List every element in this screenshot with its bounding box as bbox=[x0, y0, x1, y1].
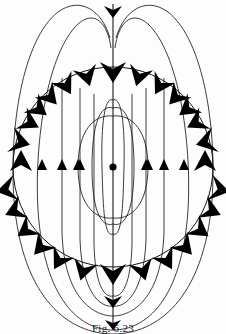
arrow-sphere-top-l1 bbox=[73, 64, 102, 90]
dipole-field-diagram bbox=[0, 0, 226, 334]
field-line-mid-right-1 bbox=[113, 78, 164, 316]
arrow-sphere-top-r1 bbox=[125, 64, 154, 90]
figure-caption: Fig. 6.23 bbox=[0, 322, 226, 334]
arrow-sphere-bot-r1 bbox=[128, 258, 157, 284]
figure-root: Fig. 6.23 bbox=[0, 0, 226, 334]
dipole-point bbox=[109, 163, 116, 170]
arrow-sphere-bot-l1 bbox=[69, 258, 98, 284]
arrow-small-left-2 bbox=[57, 159, 67, 170]
field-line-outer-right-2 bbox=[113, 18, 189, 330]
field-line-outer-left-2 bbox=[37, 18, 113, 330]
field-line-mid-left-1 bbox=[62, 78, 113, 316]
arrow-small-right-3 bbox=[179, 159, 189, 170]
arrow-small-right-2 bbox=[159, 159, 169, 170]
arrow-small-left-1 bbox=[37, 159, 47, 170]
